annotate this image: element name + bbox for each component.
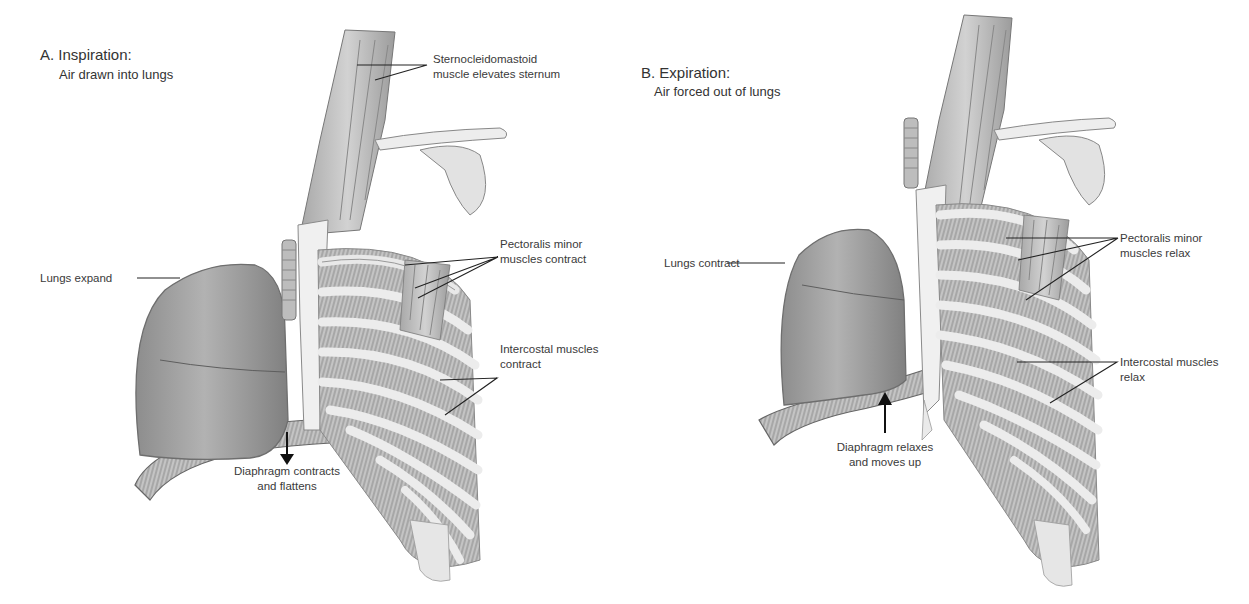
label-pectoralis-minor: Pectoralis minor muscles contract <box>500 237 586 267</box>
label-diaphragm: Diaphragm contracts and flattens <box>222 464 352 494</box>
panel-expiration: B. Expiration: Air forced out of lungs L… <box>624 0 1249 604</box>
rib-cage <box>936 204 1099 587</box>
label-intercostal: Intercostal muscles contract <box>500 342 598 372</box>
label-pectoralis-minor: Pectoralis minor muscles relax <box>1120 231 1202 261</box>
label-lungs: Lungs contract <box>664 256 739 271</box>
panel-b-title: B. Expiration: <box>641 64 730 82</box>
label-sternocleidomastoid: Sternocleidomastoid muscle elevates ster… <box>433 52 560 82</box>
label-diaphragm: Diaphragm relaxes and moves up <box>820 440 950 470</box>
lung <box>781 229 906 405</box>
clavicle <box>375 128 507 215</box>
panel-a-title: A. Inspiration: <box>40 46 132 64</box>
sternocleidomastoid-muscle <box>300 30 395 235</box>
label-lungs: Lungs expand <box>40 271 112 286</box>
trachea <box>282 240 296 320</box>
panel-inspiration: A. Inspiration: Air drawn into lungs Ste… <box>0 0 624 604</box>
clavicle <box>994 118 1116 205</box>
rib-cage <box>318 249 480 582</box>
inspiration-illustration <box>0 0 624 604</box>
panel-b-subtitle: Air forced out of lungs <box>654 84 780 100</box>
lung <box>136 264 288 459</box>
trachea <box>904 118 918 188</box>
label-intercostal: Intercostal muscles relax <box>1120 355 1218 385</box>
panel-a-subtitle: Air drawn into lungs <box>59 67 173 83</box>
